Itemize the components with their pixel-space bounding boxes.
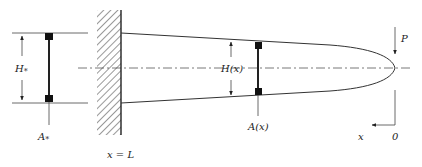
beam-diagram: H* A* H(x) A(x) P x 0 x = L	[0, 0, 422, 167]
wall-position-label: x = L	[107, 149, 134, 160]
origin-label: 0	[392, 131, 399, 142]
section-at-x: H(x) A(x)	[220, 42, 269, 132]
reference-section: H* A*	[12, 33, 88, 144]
fixed-wall	[97, 10, 121, 135]
load-label: P	[400, 33, 408, 44]
ax-label: A(x)	[247, 121, 269, 132]
section-top-node	[255, 42, 262, 49]
reference-top-node	[45, 33, 53, 40]
coordinate-axis: x 0	[358, 90, 399, 142]
x-axis-label: x	[358, 131, 364, 142]
h-star-label: H*	[14, 63, 28, 76]
a-star-label: A*	[37, 131, 49, 144]
section-bottom-node	[255, 88, 262, 95]
point-load: P	[395, 27, 408, 54]
reference-bottom-node	[45, 95, 53, 102]
hx-label: H(x)	[220, 63, 243, 74]
wall-hatching	[97, 10, 121, 135]
